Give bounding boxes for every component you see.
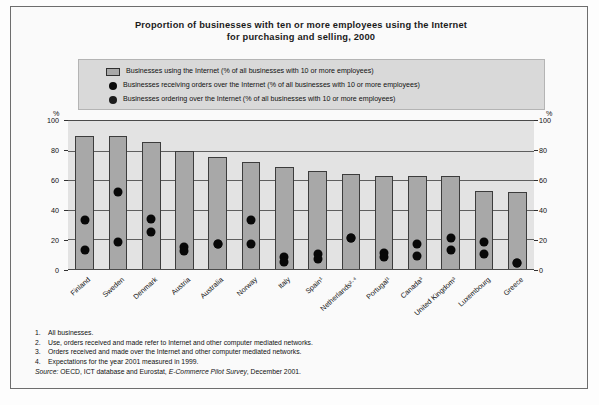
chart-legend: Businesses using the Internet (% of all …: [78, 59, 545, 110]
bar: [208, 157, 227, 269]
footnote-number: 1.: [35, 328, 48, 338]
data-point-marker: [113, 188, 122, 197]
y-tick-mark-right-0: [534, 270, 538, 271]
legend-item-ordering: Businesses ordering over the Internet (%…: [106, 93, 395, 106]
footnote-number: 3.: [35, 347, 48, 357]
footnote-1: 1.All businesses.: [35, 328, 575, 338]
plot-wrapper: [68, 120, 534, 270]
title-line-2: for purchasing and selling, 2000: [51, 31, 551, 43]
data-point-marker: [113, 238, 122, 247]
bar-group: [368, 121, 401, 269]
bar: [109, 136, 128, 269]
source-publication: E-Commerce Pilot Survey: [169, 368, 247, 375]
y-tick-label-right-40: 40: [539, 206, 561, 215]
data-point-marker: [247, 239, 256, 248]
x-axis-label-finland: Finland: [69, 275, 93, 297]
data-point-marker: [280, 257, 289, 266]
x-axis-label-denmark: Denmark: [131, 275, 159, 301]
y-tick-mark-right-20: [534, 240, 538, 241]
x-axis-label-sweden: Sweden: [100, 275, 125, 299]
y-tick-label-right-80: 80: [539, 146, 561, 155]
x-axis-label-portugal: Portugal¹: [364, 275, 392, 301]
data-point-marker: [480, 238, 489, 247]
y-tick-label-left-20: 20: [37, 236, 59, 245]
bar: [142, 142, 161, 269]
legend-label-1: Businesses using the Internet (% of all …: [126, 67, 374, 75]
y-tick-mark-right-60: [534, 180, 538, 181]
bars-container: [68, 121, 534, 269]
footnote-text: Use, orders received and made refer to I…: [48, 338, 313, 348]
footnote-number: 2.: [35, 338, 48, 348]
y-tick-mark-right-80: [534, 150, 538, 151]
legend-dot-swatch-icon-2: [109, 96, 117, 104]
bar-group: [501, 121, 534, 269]
legend-label-2: Businesses receiving orders over the Int…: [123, 81, 420, 89]
bar-group: [301, 121, 334, 269]
y-tick-mark-left-0: [64, 270, 68, 271]
bar: [342, 174, 361, 269]
bar-group: [101, 121, 134, 269]
y-tick-label-right-20: 20: [539, 236, 561, 245]
data-point-marker: [480, 250, 489, 259]
data-point-marker: [513, 259, 522, 268]
data-point-marker: [147, 228, 156, 237]
y-tick-label-left-80: 80: [37, 146, 59, 155]
data-point-marker: [80, 245, 89, 254]
title-line-1: Proportion of businesses with ten or mor…: [135, 20, 467, 30]
bar-group: [135, 121, 168, 269]
footnote-number: 4.: [35, 357, 48, 367]
bar-group: [68, 121, 101, 269]
y-tick-label-left-100: 100: [37, 116, 59, 125]
data-point-marker: [80, 216, 89, 225]
bar-group: [334, 121, 367, 269]
y-tick-mark-right-40: [534, 210, 538, 211]
x-axis-label-australia: Australia: [199, 275, 226, 300]
footnote-4: 4.Expectations for the year 2001 measure…: [35, 357, 575, 367]
x-axis-label-norway: Norway: [235, 275, 259, 298]
footnote-list: 1.All businesses.2.Use, orders received …: [35, 328, 575, 366]
bar-group: [234, 121, 267, 269]
bar-group: [467, 121, 500, 269]
figure-frame: Proportion of businesses with ten or mor…: [10, 6, 588, 389]
y-tick-label-right-60: 60: [539, 176, 561, 185]
legend-bar-swatch-icon: [106, 68, 120, 76]
footnote-text: Orders received and made over the Intern…: [48, 347, 302, 357]
bar: [441, 176, 460, 269]
footnote-3: 3.Orders received and made over the Inte…: [35, 347, 575, 357]
legend-dot-swatch-icon: [109, 82, 117, 90]
legend-item-internet-use: Businesses using the Internet (% of all …: [106, 65, 374, 78]
y-tick-label-right-0: 0: [539, 266, 561, 275]
bar: [508, 192, 527, 269]
x-axis-label-greece: Greece: [501, 275, 525, 297]
x-axis-label-austria: Austria: [170, 275, 193, 297]
bar-group: [434, 121, 467, 269]
data-point-marker: [346, 233, 355, 242]
plot-area: [68, 120, 534, 270]
data-point-marker: [313, 254, 322, 263]
y-tick-label-left-0: 0: [37, 266, 59, 275]
y-tick-label-left-40: 40: [37, 206, 59, 215]
source-label: Source:: [35, 368, 58, 375]
bar-group: [401, 121, 434, 269]
legend-label-3: Businesses ordering over the Internet (%…: [123, 95, 395, 103]
data-point-marker: [147, 214, 156, 223]
bar-group: [268, 121, 301, 269]
source-text-before: OECD, ICT database and Eurostat,: [60, 368, 166, 375]
footnotes: 1.All businesses.2.Use, orders received …: [35, 328, 575, 377]
y-tick-mark-right-100: [534, 120, 538, 121]
y-tick-label-left-60: 60: [37, 176, 59, 185]
data-point-marker: [413, 239, 422, 248]
footnote-text: Expectations for the year 2001 measured …: [48, 357, 198, 367]
x-axis-label-canada: Canada³: [399, 275, 426, 300]
page-title: Proportion of businesses with ten or mor…: [51, 19, 551, 43]
x-axis-label-italy: Italy: [276, 275, 292, 291]
y-tick-label-right-100: 100: [539, 116, 561, 125]
x-axis-label-spain: Spain¹: [304, 275, 325, 296]
footnote-text: All businesses.: [48, 328, 93, 338]
source-text-after: , December 2001.: [247, 368, 301, 375]
data-point-marker: [247, 216, 256, 225]
bar-group: [168, 121, 201, 269]
data-point-marker: [446, 245, 455, 254]
data-point-marker: [413, 251, 422, 260]
data-point-marker: [380, 253, 389, 262]
